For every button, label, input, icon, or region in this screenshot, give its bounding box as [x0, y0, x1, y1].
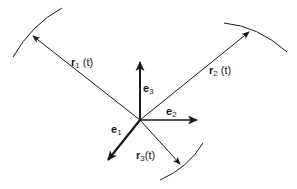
label-e2: e2 — [166, 106, 177, 119]
vector-diagram: r1 (t) r2 (t) r3(t) e3 e2 e1 — [0, 0, 297, 189]
vector-r2-arrow — [140, 32, 249, 120]
label-r2: r2 (t) — [209, 65, 231, 78]
vector-r1-arrow — [33, 36, 140, 120]
label-r3: r3(t) — [136, 150, 155, 163]
label-r1: r1 (t) — [71, 57, 93, 70]
label-e1: e1 — [111, 124, 122, 137]
trajectory-curve-1 — [13, 8, 62, 57]
label-e3: e3 — [143, 83, 154, 96]
trajectory-curve-2 — [224, 23, 287, 52]
